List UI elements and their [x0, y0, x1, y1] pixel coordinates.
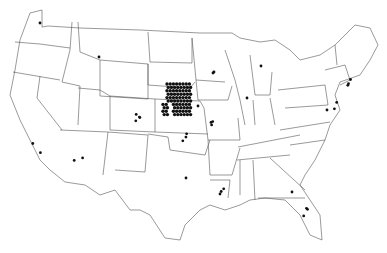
location-marker — [175, 89, 178, 92]
location-marker — [165, 89, 168, 92]
location-marker — [181, 82, 184, 85]
location-marker — [172, 103, 175, 106]
border-nm — [108, 132, 148, 172]
location-marker — [183, 99, 186, 102]
location-marker — [138, 116, 141, 119]
us-outline — [10, 10, 378, 240]
location-marker — [173, 99, 176, 102]
location-marker — [170, 86, 173, 89]
location-marker — [188, 89, 191, 92]
location-marker — [175, 110, 178, 113]
location-marker — [185, 136, 188, 139]
location-marker — [178, 89, 181, 92]
location-marker — [335, 101, 338, 104]
location-marker — [349, 78, 352, 81]
border-ks-ok — [155, 132, 208, 134]
location-marker — [189, 99, 192, 102]
location-marker — [163, 113, 166, 116]
location-marker — [31, 142, 34, 145]
border-mi — [250, 55, 272, 95]
location-marker — [185, 82, 188, 85]
border-mn — [192, 38, 225, 82]
border-id — [62, 22, 72, 82]
location-marker — [179, 86, 182, 89]
border-ne-states — [325, 45, 350, 85]
location-marker — [183, 93, 186, 96]
border-mt-wy — [100, 60, 148, 64]
location-marker — [185, 110, 188, 113]
border-ut-co — [78, 88, 110, 130]
location-marker — [165, 103, 168, 106]
border-nv-ut — [62, 82, 80, 125]
location-marker — [167, 86, 170, 89]
location-marker — [183, 113, 186, 116]
location-marker — [169, 82, 172, 85]
border-ia — [196, 80, 232, 100]
location-marker — [172, 89, 175, 92]
location-marker — [189, 86, 192, 89]
location-marker — [189, 106, 192, 109]
border-ok-tx — [148, 134, 210, 155]
border-nd-sd — [148, 32, 192, 63]
location-marker — [173, 93, 176, 96]
location-marker — [176, 93, 179, 96]
location-marker — [175, 96, 178, 99]
location-marker — [210, 124, 213, 127]
location-marker — [181, 103, 184, 106]
location-marker — [172, 96, 175, 99]
location-marker — [212, 72, 215, 75]
location-marker — [179, 113, 182, 116]
location-marker — [165, 82, 168, 85]
location-marker — [220, 190, 223, 193]
border-ar-la — [208, 140, 240, 175]
location-marker — [176, 99, 179, 102]
location-marker — [186, 99, 189, 102]
location-marker — [179, 99, 182, 102]
us-map — [0, 0, 387, 253]
location-marker — [135, 113, 138, 116]
location-marker — [178, 103, 181, 106]
location-marker — [181, 139, 184, 142]
location-marker — [346, 84, 349, 87]
location-marker — [167, 93, 170, 96]
location-marker — [185, 89, 188, 92]
location-marker — [179, 106, 182, 109]
location-marker — [165, 96, 168, 99]
location-marker — [175, 82, 178, 85]
location-marker — [81, 157, 84, 160]
location-marker — [167, 99, 170, 102]
location-marker — [178, 110, 181, 113]
marker-layer — [31, 22, 352, 218]
border-ky-tn — [237, 155, 290, 160]
location-marker — [188, 82, 191, 85]
location-marker — [169, 89, 172, 92]
border-or-ca — [13, 72, 60, 80]
location-marker — [172, 82, 175, 85]
location-marker — [186, 93, 189, 96]
location-marker — [134, 119, 137, 122]
location-marker — [73, 159, 76, 162]
location-marker — [176, 86, 179, 89]
location-marker — [179, 93, 182, 96]
location-marker — [186, 113, 189, 116]
location-marker — [178, 96, 181, 99]
border-va-nc — [280, 122, 330, 145]
location-marker — [183, 86, 186, 89]
location-marker — [260, 65, 263, 68]
location-marker — [306, 208, 309, 211]
location-marker — [98, 56, 101, 59]
location-marker — [161, 103, 164, 106]
location-marker — [173, 106, 176, 109]
location-marker — [189, 113, 192, 116]
border-mo — [204, 108, 240, 140]
border-pa-ny — [278, 85, 328, 108]
location-marker — [181, 89, 184, 92]
border-ms-al — [240, 160, 255, 200]
state-borders — [10, 10, 378, 240]
location-marker — [188, 96, 191, 99]
location-marker — [185, 132, 188, 135]
border-ca-nv — [37, 76, 62, 130]
location-marker — [188, 103, 191, 106]
location-marker — [246, 97, 249, 100]
location-marker — [185, 96, 188, 99]
